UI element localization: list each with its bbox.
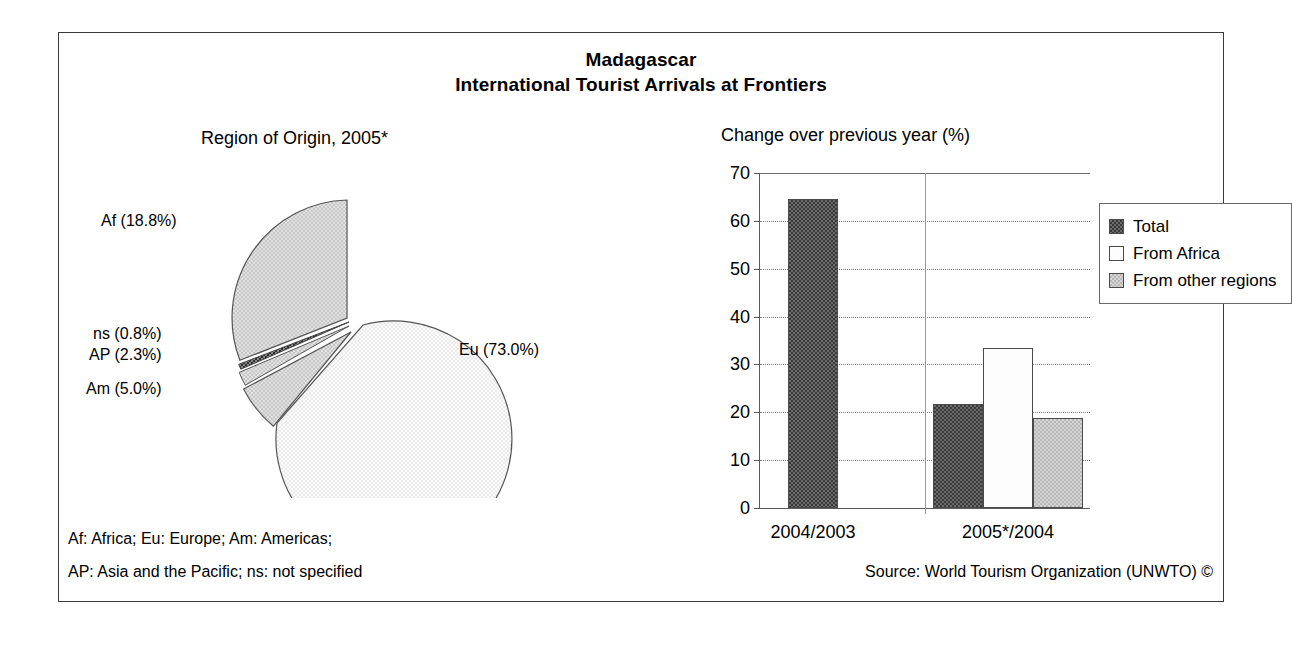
ytick-label-10: 10	[730, 450, 750, 471]
source-note: Source: World Tourism Organization (UNWT…	[865, 563, 1213, 581]
legend-label-from-other-regions: From other regions	[1133, 271, 1277, 291]
legend-swatch-total-icon	[1109, 219, 1124, 234]
ytick-mark-60	[754, 221, 760, 222]
footnote-abbreviations-line-1: Af: Africa; Eu: Europe; Am: Americas;	[68, 530, 332, 548]
legend-item-from-africa: From Africa	[1109, 240, 1277, 267]
pie-label-eu: Eu (73.0%)	[459, 341, 539, 359]
ytick-label-30: 30	[730, 354, 750, 375]
ytick-mark-10	[754, 460, 760, 461]
bar-plot-area: 70 60 50 40 30 20 10 0	[759, 173, 1090, 509]
title-block: Madagascar International Tourist Arrival…	[59, 47, 1223, 98]
figure-frame: Madagascar International Tourist Arrival…	[58, 32, 1224, 602]
pie-chart: Af (18.8%) ns (0.8%) AP (2.3%) Am (5.0%)…	[61, 148, 651, 498]
xtick-label-2005-2004: 2005*/2004	[962, 522, 1054, 543]
bar-from-other-regions-2005-2004	[1033, 418, 1083, 508]
ytick-mark-40	[754, 317, 760, 318]
bar-total-2004-2003	[788, 199, 838, 509]
legend-item-from-other-regions: From other regions	[1109, 267, 1277, 294]
bar-chart: 70 60 50 40 30 20 10 0	[634, 143, 1224, 563]
ytick-mark-70	[754, 173, 760, 174]
ytick-label-50: 50	[730, 258, 750, 279]
ytick-mark-50	[754, 269, 760, 270]
legend-item-total: Total	[1109, 213, 1277, 240]
ytick-label-60: 60	[730, 210, 750, 231]
pie-chart-caption: Region of Origin, 2005*	[201, 128, 388, 149]
pie-label-ns: ns (0.8%)	[93, 325, 161, 343]
legend-swatch-from-other-regions-icon	[1109, 273, 1124, 288]
pie-chart-svg	[61, 148, 651, 498]
page-title: Madagascar	[59, 47, 1223, 72]
ytick-label-0: 0	[740, 498, 750, 519]
ytick-mark-0	[754, 508, 760, 509]
pie-label-af: Af (18.8%)	[101, 212, 177, 230]
pie-label-am: Am (5.0%)	[86, 380, 162, 398]
ytick-label-40: 40	[730, 306, 750, 327]
footnote-abbreviations-line-2: AP: Asia and the Pacific; ns: not specif…	[68, 563, 362, 581]
category-divider	[925, 173, 926, 514]
ytick-label-20: 20	[730, 402, 750, 423]
ytick-mark-20	[754, 412, 760, 413]
legend: Total From Africa From other regions	[1099, 203, 1292, 304]
legend-label-total: Total	[1133, 217, 1169, 237]
legend-label-from-africa: From Africa	[1133, 244, 1220, 264]
ytick-label-70: 70	[730, 163, 750, 184]
bar-total-2005-2004	[933, 404, 983, 508]
page-subtitle: International Tourist Arrivals at Fronti…	[59, 72, 1223, 98]
xtick-label-2004-2003: 2004/2003	[770, 522, 855, 543]
pie-label-ap: AP (2.3%)	[89, 346, 162, 364]
legend-swatch-from-africa-icon	[1109, 246, 1124, 261]
bar-from-africa-2005-2004	[983, 348, 1033, 508]
ytick-mark-30	[754, 364, 760, 365]
